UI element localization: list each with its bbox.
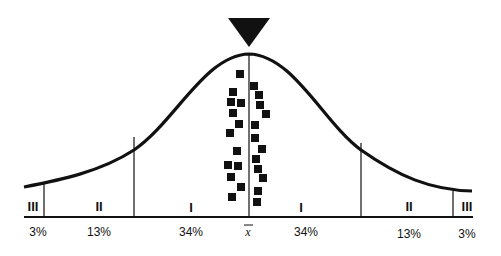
data-point bbox=[233, 147, 241, 155]
data-point bbox=[229, 109, 237, 117]
bell-curve-diagram: III II I I II III 3% 13% 34% 34% 13% 3% … bbox=[0, 0, 501, 256]
data-point bbox=[229, 88, 237, 96]
data-point bbox=[251, 134, 259, 142]
bell-curve bbox=[24, 54, 472, 191]
data-point bbox=[254, 165, 262, 173]
data-point bbox=[251, 121, 259, 129]
percent-left-I: 34% bbox=[179, 225, 203, 239]
data-point bbox=[235, 120, 243, 128]
data-point bbox=[259, 174, 267, 182]
data-point bbox=[258, 145, 266, 153]
mean-marker-triangle-icon bbox=[228, 18, 270, 47]
percent-right-III: 3% bbox=[458, 227, 476, 241]
data-point bbox=[226, 129, 234, 137]
percent-right-II: 13% bbox=[397, 227, 421, 241]
mean-label: x bbox=[244, 225, 251, 239]
data-point bbox=[255, 91, 263, 99]
data-point bbox=[234, 162, 242, 170]
percent-left-III: 3% bbox=[29, 225, 47, 239]
zone-label-left-III: III bbox=[28, 199, 39, 214]
data-point bbox=[252, 155, 260, 163]
zone-label-left-I: I bbox=[189, 200, 193, 215]
zone-label-right-II: II bbox=[405, 199, 412, 214]
data-point bbox=[262, 110, 270, 118]
data-point bbox=[227, 173, 235, 181]
data-point bbox=[254, 187, 262, 195]
zone-label-left-II: II bbox=[95, 199, 102, 214]
data-point bbox=[256, 101, 264, 109]
data-point bbox=[228, 193, 236, 201]
data-point bbox=[237, 99, 245, 107]
percent-right-I: 34% bbox=[294, 225, 318, 239]
data-points bbox=[224, 70, 270, 206]
data-point bbox=[250, 82, 258, 90]
data-point bbox=[253, 198, 261, 206]
data-point bbox=[224, 161, 232, 169]
zone-label-right-III: III bbox=[462, 199, 473, 214]
zone-label-right-I: I bbox=[299, 200, 303, 215]
percent-left-II: 13% bbox=[87, 225, 111, 239]
data-point bbox=[237, 183, 245, 191]
data-point bbox=[227, 98, 235, 106]
data-point bbox=[236, 70, 244, 78]
